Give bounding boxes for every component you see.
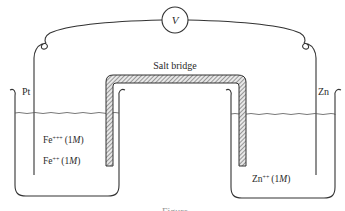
left-solution-surface: [15, 113, 119, 114]
pt-electrode-label: Pt: [22, 86, 31, 97]
left-wire-loop: [34, 43, 47, 58]
figure-caption: Figure: [162, 206, 189, 211]
electrochemical-cell-diagram: V Salt bridge Pt Zn Fe+++(1M) Fe++(1M) Z…: [0, 0, 345, 211]
salt-bridge: [106, 75, 246, 166]
zn2-label: Zn++(1M): [252, 174, 290, 185]
voltmeter: V: [162, 7, 188, 33]
zn-electrode-label: Zn: [318, 86, 329, 97]
right-solution-surface: [231, 114, 335, 116]
right-wire-loop: [303, 43, 316, 58]
salt-bridge-label: Salt bridge: [153, 60, 197, 71]
fe3-label: Fe+++(1M): [43, 135, 84, 146]
fe2-label: Fe++(1M): [43, 156, 80, 167]
